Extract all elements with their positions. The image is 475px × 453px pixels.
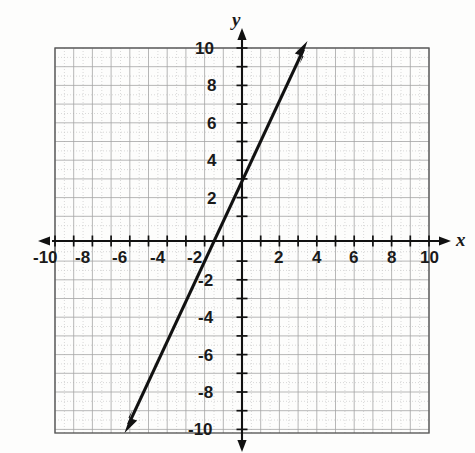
x-tick-label-neg8: -8 [75,249,90,266]
y-tick-label-4: 4 [207,152,216,169]
y-tick-label-10: 10 [195,40,214,57]
y-tick-label-neg6: -6 [198,347,213,364]
x-tick-label-neg10: -10 [33,249,58,266]
x-tick-label-neg4: -4 [150,249,165,266]
y-tick-label-neg4: -4 [198,309,213,326]
y-tick-label-6: 6 [207,115,216,132]
coordinate-plane-figure: y x -10 -8 -6 -4 -2 2 4 6 8 10 10 8 6 4 … [0,0,475,453]
x-axis [38,236,451,245]
x-tick-label-8: 8 [387,249,396,266]
y-axis-label: y [232,10,240,29]
y-tick-label-neg10: -10 [188,421,213,438]
graph-canvas [0,0,475,453]
x-tick-label-2: 2 [274,249,283,266]
x-tick-label-neg2: -2 [187,249,202,266]
y-tick-label-neg2: -2 [198,272,213,289]
y-tick-label-neg8: -8 [198,384,213,401]
x-tick-label-neg6: -6 [112,249,127,266]
y-tick-label-2: 2 [207,190,216,207]
x-tick-label-6: 6 [349,249,358,266]
x-axis-label: x [456,230,466,249]
x-tick-label-4: 4 [312,249,321,266]
y-tick-label-8: 8 [207,77,216,94]
x-tick-label-10: 10 [420,249,439,266]
